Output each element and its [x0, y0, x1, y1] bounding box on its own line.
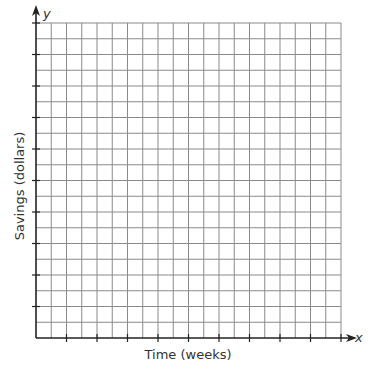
y-axis-name: y — [43, 6, 51, 21]
coordinate-grid — [0, 0, 373, 371]
x-axis-label: Time (weeks) — [144, 347, 231, 362]
y-axis-label: Savings (dollars) — [12, 132, 27, 241]
x-axis-name: x — [355, 330, 363, 345]
